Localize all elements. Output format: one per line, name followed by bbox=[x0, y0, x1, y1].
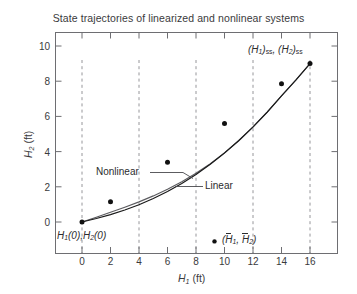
x-tick-label: 6 bbox=[165, 256, 171, 267]
x-axis-ticks bbox=[82, 247, 310, 253]
chart-figure: State trajectories of linearized and non… bbox=[0, 0, 357, 294]
x-tick-label: 10 bbox=[219, 256, 230, 267]
plot-frame bbox=[56, 33, 338, 254]
y-axis-title-sub: 2 bbox=[28, 146, 36, 150]
nonlinear-label: Nonlinear bbox=[96, 166, 139, 177]
x-tick-label: 2 bbox=[108, 256, 114, 267]
marker-point bbox=[165, 160, 170, 165]
x-tick-label: 0 bbox=[79, 256, 85, 267]
marker-point bbox=[279, 81, 284, 86]
marker-point bbox=[108, 199, 113, 204]
marker-point-operating bbox=[212, 239, 216, 243]
x-axis-title-sub: 1 bbox=[186, 278, 190, 286]
operating-point-label: (H1, H2) bbox=[222, 234, 256, 245]
y-tick-label: 6 bbox=[28, 111, 50, 122]
initial-condition-label: H1(0),H2(0) bbox=[57, 230, 106, 241]
y-tick-label: 0 bbox=[28, 217, 50, 228]
marker-point bbox=[222, 121, 227, 126]
y-axis-title-var: H bbox=[22, 150, 34, 158]
y-axis-title: H2 (ft) bbox=[22, 131, 36, 158]
y-axis-title-unit: (ft) bbox=[22, 131, 34, 144]
y-tick-label: 2 bbox=[28, 181, 50, 192]
x-tick-label: 14 bbox=[276, 256, 287, 267]
linear-label: Linear bbox=[205, 180, 233, 191]
y-tick-label: 8 bbox=[28, 76, 50, 87]
x-axis-title: H1 (ft) bbox=[178, 272, 205, 286]
y-axis-ticks-right bbox=[332, 46, 338, 222]
x-tick-label: 12 bbox=[247, 256, 258, 267]
vertical-gridlines bbox=[82, 60, 310, 253]
x-tick-label: 16 bbox=[304, 256, 315, 267]
x-axis-ticks-top bbox=[82, 33, 310, 39]
marker-point bbox=[80, 220, 85, 225]
y-tick-label: 10 bbox=[28, 41, 50, 52]
x-axis-title-var: H bbox=[178, 272, 186, 284]
plot-canvas bbox=[0, 0, 357, 294]
y-axis-ticks bbox=[56, 46, 62, 222]
x-tick-label: 4 bbox=[136, 256, 142, 267]
x-tick-label: 8 bbox=[193, 256, 199, 267]
marker-point bbox=[308, 61, 313, 66]
steady-state-label: (H1)ss, (H2)ss bbox=[248, 44, 303, 55]
x-axis-title-unit: (ft) bbox=[192, 272, 205, 284]
